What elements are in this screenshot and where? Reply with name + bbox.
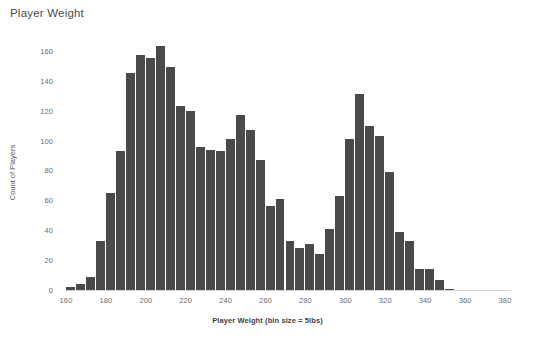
histogram-bar[interactable] — [116, 151, 125, 290]
histogram-bar[interactable] — [126, 73, 135, 290]
x-tick-label: 380 — [499, 296, 512, 305]
histogram-bar[interactable] — [295, 248, 304, 290]
histogram-bar[interactable] — [186, 111, 195, 290]
histogram-bar[interactable] — [86, 277, 95, 290]
chart-container: Player Weight 020406080100120140160 Coun… — [0, 0, 535, 339]
histogram-bar[interactable] — [246, 130, 255, 290]
y-tick-label: 120 — [40, 106, 53, 115]
histogram-bar[interactable] — [196, 147, 205, 290]
histogram-bar[interactable] — [365, 126, 374, 290]
histogram-plot-area — [66, 36, 505, 290]
histogram-bar[interactable] — [106, 193, 115, 290]
histogram-bar[interactable] — [286, 241, 295, 290]
x-tick-label: 200 — [139, 296, 152, 305]
x-tick-label: 240 — [219, 296, 232, 305]
histogram-bar[interactable] — [226, 139, 235, 290]
histogram-bar[interactable] — [256, 160, 265, 290]
x-axis-title: Player Weight (bin size = 5lbs) — [0, 316, 535, 325]
x-axis-baseline — [66, 290, 511, 291]
histogram-bar[interactable] — [315, 254, 324, 290]
histogram-bar[interactable] — [236, 115, 245, 290]
histogram-bar[interactable] — [166, 67, 175, 290]
x-tick-label: 160 — [60, 296, 73, 305]
histogram-bar[interactable] — [405, 241, 414, 290]
y-tick-label: 100 — [40, 136, 53, 145]
x-tick-label: 220 — [179, 296, 192, 305]
histogram-bar[interactable] — [266, 206, 275, 290]
y-axis-title: Count of Players — [8, 113, 17, 233]
y-axis: 020406080100120140160 Count of Players — [0, 0, 64, 339]
histogram-bar[interactable] — [305, 244, 314, 290]
histogram-bar[interactable] — [325, 229, 334, 290]
y-tick-label: 80 — [44, 166, 53, 175]
y-tick-label: 140 — [40, 76, 53, 85]
y-tick-label: 160 — [40, 46, 53, 55]
histogram-bar[interactable] — [355, 94, 364, 290]
y-tick-label: 60 — [44, 196, 53, 205]
histogram-bar[interactable] — [335, 196, 344, 290]
histogram-bar[interactable] — [146, 58, 155, 290]
histogram-bar[interactable] — [375, 136, 384, 290]
x-tick-label: 180 — [99, 296, 112, 305]
histogram-bar[interactable] — [415, 269, 424, 290]
x-tick-label: 340 — [419, 296, 432, 305]
x-tick-label: 300 — [339, 296, 352, 305]
histogram-bar[interactable] — [176, 106, 185, 290]
y-tick-label: 20 — [44, 256, 53, 265]
histogram-bar[interactable] — [425, 269, 434, 290]
histogram-bar[interactable] — [136, 55, 145, 290]
x-axis: 160180200220240260280300320340360380 — [0, 292, 535, 312]
x-tick-label: 260 — [259, 296, 272, 305]
x-tick-label: 320 — [379, 296, 392, 305]
histogram-bar[interactable] — [385, 172, 394, 290]
x-tick-label: 360 — [459, 296, 472, 305]
histogram-bar[interactable] — [435, 280, 444, 290]
x-tick-label: 280 — [299, 296, 312, 305]
histogram-bar[interactable] — [206, 150, 215, 290]
y-tick-label: 40 — [44, 226, 53, 235]
histogram-bar[interactable] — [96, 241, 105, 290]
histogram-bar[interactable] — [276, 199, 285, 290]
histogram-bar[interactable] — [156, 46, 165, 290]
histogram-bar[interactable] — [345, 139, 354, 290]
histogram-bar[interactable] — [216, 151, 225, 290]
histogram-bar[interactable] — [395, 232, 404, 290]
